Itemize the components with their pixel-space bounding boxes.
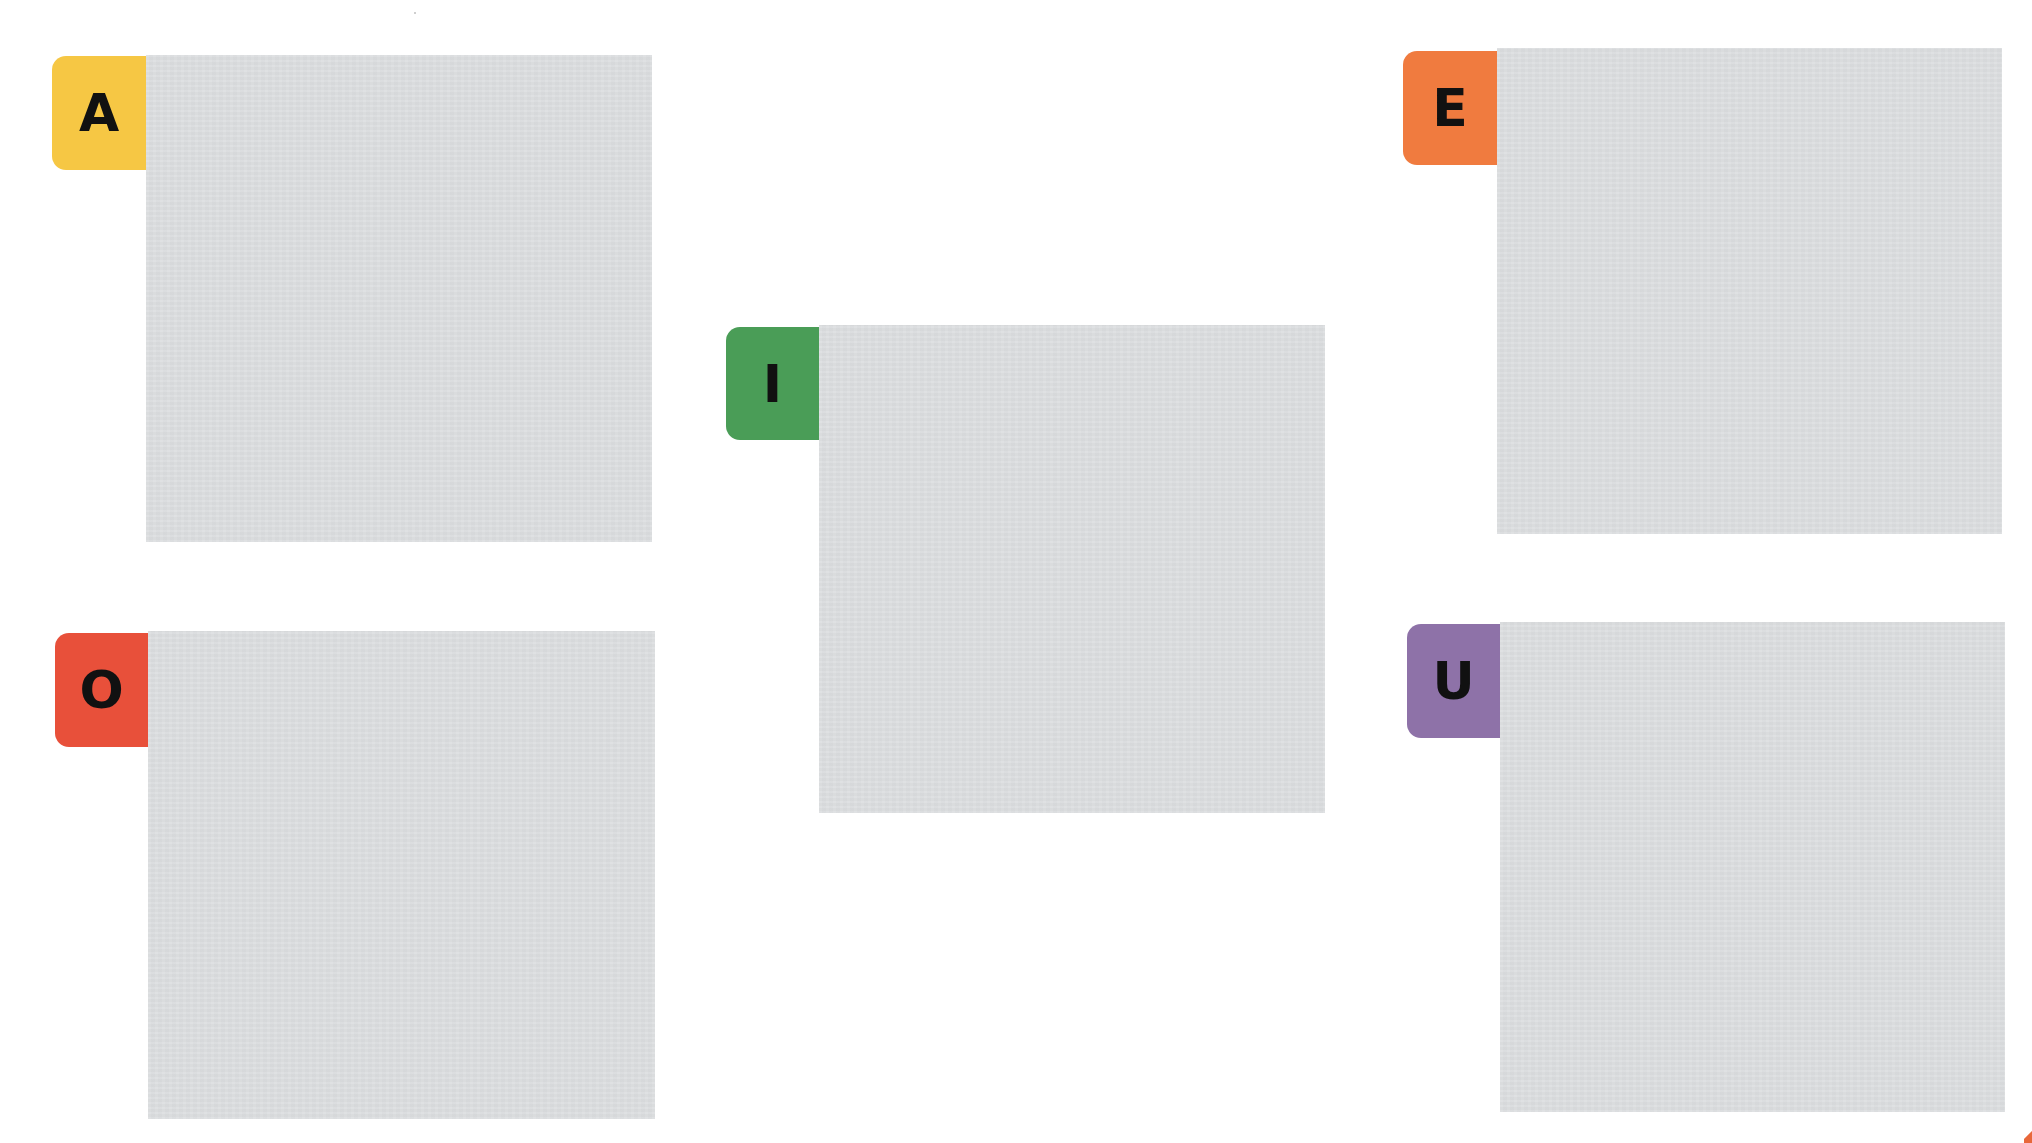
card-u-letter: U	[1432, 655, 1474, 707]
card-a-tab[interactable]: A	[52, 56, 146, 170]
card-a-panel[interactable]	[146, 55, 652, 542]
stray-speck	[414, 12, 416, 14]
card-e-letter: E	[1432, 82, 1468, 134]
card-i-panel[interactable]	[819, 325, 1325, 813]
card-i-letter: I	[763, 358, 782, 410]
card-a-letter: A	[79, 87, 119, 139]
card-i-tab[interactable]: I	[726, 327, 819, 440]
card-u-tab[interactable]: U	[1407, 624, 1500, 738]
card-o-panel[interactable]	[148, 631, 655, 1119]
card-u-panel[interactable]	[1500, 622, 2005, 1112]
card-e-tab[interactable]: E	[1403, 51, 1497, 165]
card-o-tab[interactable]: O	[55, 633, 148, 747]
corner-fragment	[2024, 1128, 2032, 1143]
card-o-letter: O	[79, 664, 123, 716]
card-e-panel[interactable]	[1497, 48, 2002, 534]
